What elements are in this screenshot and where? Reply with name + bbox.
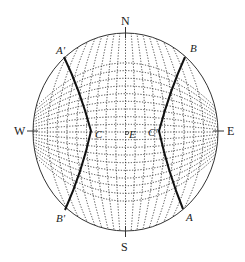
east-label: E xyxy=(227,124,234,138)
point-c-label: C xyxy=(95,128,103,140)
south-label: S xyxy=(121,240,128,254)
label-a: A xyxy=(185,211,193,223)
north-label: N xyxy=(121,14,130,28)
label-b-prime: B' xyxy=(56,212,66,224)
west-label: W xyxy=(14,124,26,138)
label-a-prime: A' xyxy=(55,44,66,56)
point-e-label: E xyxy=(128,128,136,140)
point-c-prime-label: C' xyxy=(148,126,158,138)
great-circle-a-prime-b-prime xyxy=(64,57,91,210)
label-b: B xyxy=(190,42,197,54)
stereonet-diagram: N S W E A' B B' A C E C' xyxy=(0,0,245,262)
